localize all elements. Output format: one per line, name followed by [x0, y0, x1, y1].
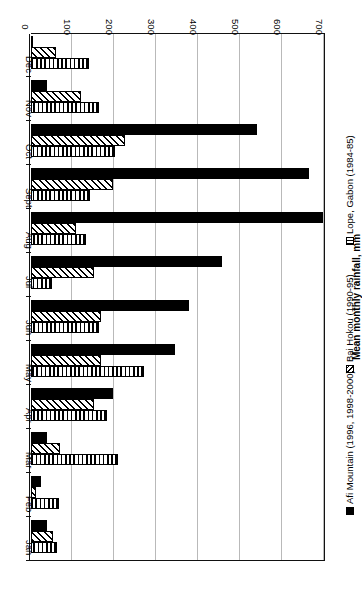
bar-sept-series-0 [31, 168, 309, 179]
bar-jun-series-1 [31, 311, 101, 322]
bar-may-series-1 [31, 355, 101, 366]
month-group-oct: Oct [31, 121, 325, 165]
category-label-oct: Oct [21, 144, 37, 176]
month-group-apr: Apr [31, 385, 325, 429]
category-label-jun: Jun [21, 320, 37, 352]
bar-aug-series-0 [31, 212, 323, 223]
bar-mar-series-2 [31, 454, 118, 465]
month-group-jan: Jan [31, 517, 325, 561]
bar-jul-series-1 [31, 267, 94, 278]
bar-nov-series-1 [31, 91, 81, 102]
bar-jun-series-2 [31, 322, 99, 333]
month-group-jul: Jul [31, 253, 325, 297]
month-group-nov: Nov [31, 77, 325, 121]
category-label-feb: Feb [21, 496, 37, 528]
bar-apr-series-2 [31, 410, 107, 421]
value-tick-label-0: 0 [20, 7, 31, 47]
bar-may-series-0 [31, 344, 175, 355]
bar-oct-series-2 [31, 146, 115, 157]
bar-sept-series-2 [31, 190, 90, 201]
bar-jul-series-0 [31, 256, 222, 267]
category-label-sept: Sept [21, 188, 37, 220]
month-group-aug: Aug [31, 209, 325, 253]
month-group-sept: Sept [31, 165, 325, 209]
bar-aug-series-1 [31, 223, 76, 234]
category-label-aug: Aug [21, 232, 37, 264]
value-axis-title: Mean monthly rainfall, mm [351, 33, 362, 561]
bar-apr-series-1 [31, 399, 94, 410]
chart-plot-area: 0100200300400500600700JanFebMarAprMayJun… [31, 33, 325, 561]
category-label-nov: Nov [21, 100, 37, 132]
bar-nov-series-2 [31, 102, 99, 113]
bar-dec-series-2 [31, 58, 89, 69]
bar-oct-series-0 [31, 124, 257, 135]
category-label-mar: Mar [21, 452, 37, 484]
month-group-mar: Mar [31, 429, 325, 473]
month-group-feb: Feb [31, 473, 325, 517]
category-label-apr: Apr [21, 408, 37, 440]
category-label-dec: Dec [21, 56, 37, 88]
bar-jun-series-0 [31, 300, 189, 311]
month-group-jun: Jun [31, 297, 325, 341]
category-label-may: May [21, 364, 37, 396]
bar-dec-series-0 [31, 36, 33, 47]
bar-sept-series-1 [31, 179, 113, 190]
month-group-may: May [31, 341, 325, 385]
bar-aug-series-2 [31, 234, 86, 245]
category-label-jul: Jul [21, 276, 37, 308]
bar-apr-series-0 [31, 388, 113, 399]
month-group-dec: Dec [31, 33, 325, 77]
bar-may-series-2 [31, 366, 144, 377]
bar-oct-series-1 [31, 135, 126, 146]
category-label-jan: Jan [21, 540, 37, 572]
